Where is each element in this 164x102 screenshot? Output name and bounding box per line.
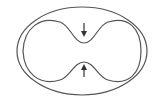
cleavage-diagram <box>0 0 164 102</box>
inner-cell-body <box>23 20 141 81</box>
outer-membrane <box>17 7 147 95</box>
